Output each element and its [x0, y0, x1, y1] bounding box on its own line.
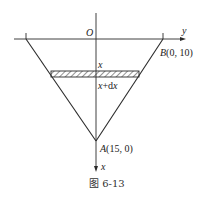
y-axis-label: y [181, 25, 187, 36]
triangle-strip-diagram: O y B(0, 10) x x+dx A(15, 0) x 图 6-13 [0, 0, 211, 205]
point-b-label: B(0, 10) [160, 47, 193, 59]
triangle-left-side [26, 39, 96, 141]
x-axis-arrow-icon [94, 166, 98, 172]
hatched-strip [51, 71, 139, 77]
strip-bottom-label: x+dx [97, 80, 118, 91]
strip-top-label: x [97, 59, 103, 70]
origin-label: O [86, 27, 93, 38]
figure-caption: 图 6-13 [89, 178, 125, 189]
x-axis-label: x [100, 161, 106, 172]
y-axis-arrow-icon [180, 37, 186, 41]
point-a-label: A(15, 0) [99, 143, 133, 155]
